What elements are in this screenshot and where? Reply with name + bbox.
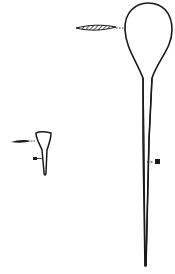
large-flask-specimen	[125, 3, 172, 266]
small-specimen-marker	[33, 157, 42, 160]
large-specimen-pointer	[76, 25, 124, 30]
specimen-figure	[0, 0, 175, 274]
small-specimen-pointer	[11, 140, 36, 143]
small-flask-specimen	[36, 132, 51, 175]
